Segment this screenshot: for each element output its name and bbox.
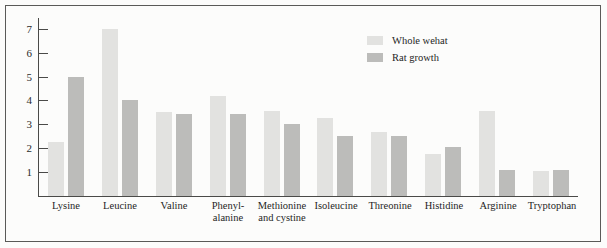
bar: [371, 132, 387, 197]
legend-label: Rat growth: [392, 52, 439, 63]
legend-swatch-icon: [367, 53, 383, 62]
bar: [176, 114, 192, 196]
x-axis-label: Leucine: [93, 200, 147, 223]
y-tick-label: 7: [27, 21, 33, 37]
x-axis-label: Lysine: [39, 200, 93, 223]
bar-group: [470, 18, 524, 196]
bar: [68, 77, 84, 196]
x-axis-line: [38, 196, 578, 197]
bar: [210, 96, 226, 196]
bar: [317, 118, 333, 196]
bar-group: [201, 18, 255, 196]
x-axis-label: Arginine: [471, 200, 525, 223]
bar-group: [524, 18, 578, 196]
x-axis-label: Isoleucine: [309, 200, 363, 223]
bar: [499, 170, 515, 196]
bar: [445, 147, 461, 196]
bar-groups: [39, 18, 578, 196]
y-tick-label: 2: [27, 140, 33, 156]
x-axis-label: Methionine and cystine: [255, 200, 309, 223]
bar: [479, 111, 495, 196]
bar-group: [93, 18, 147, 196]
bar: [337, 136, 353, 196]
x-axis-labels: LysineLeucineValinePhenyl- alanineMethio…: [39, 200, 579, 223]
chart-legend: Whole wehatRat growth: [367, 33, 448, 67]
x-axis-label: Histidine: [417, 200, 471, 223]
legend-item: Whole wehat: [367, 33, 448, 47]
y-tick-label: 1: [27, 164, 33, 180]
bar: [264, 111, 280, 196]
y-tick-label: 3: [27, 116, 33, 132]
bar-group: [39, 18, 93, 196]
bar: [391, 136, 407, 196]
bar: [102, 29, 118, 196]
bar: [533, 171, 549, 196]
bar: [156, 112, 172, 196]
bar: [553, 170, 569, 196]
bar-group: [255, 18, 309, 196]
y-tick-label: 4: [27, 92, 33, 108]
legend-label: Whole wehat: [392, 35, 448, 46]
bar: [122, 100, 138, 196]
bar-group: [309, 18, 363, 196]
legend-item: Rat growth: [367, 50, 448, 64]
bar: [230, 114, 246, 196]
bar-group: [147, 18, 201, 196]
y-tick-label: 6: [27, 45, 33, 61]
bar: [284, 124, 300, 196]
bar: [48, 142, 64, 196]
bar: [425, 154, 441, 196]
chart-figure: 1234567 LysineLeucineValinePhenyl- alani…: [0, 0, 607, 248]
x-axis-label: Valine: [147, 200, 201, 223]
x-axis-label: Phenyl- alanine: [201, 200, 255, 223]
x-axis-label: Tryptophan: [525, 200, 579, 223]
legend-swatch-icon: [367, 36, 383, 45]
x-axis-label: Threonine: [363, 200, 417, 223]
plot-area: 1234567: [38, 18, 578, 196]
y-tick-label: 5: [27, 69, 33, 85]
